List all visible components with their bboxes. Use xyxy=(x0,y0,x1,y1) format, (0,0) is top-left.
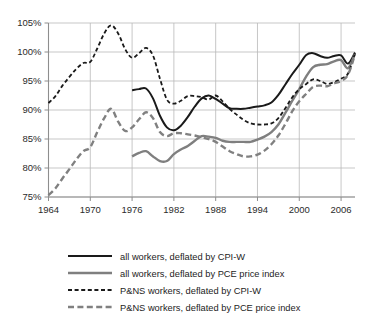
y-axis-tick-label: 95% xyxy=(22,75,42,86)
chart-legend: all workers, deflated by CPI-Wall worker… xyxy=(68,252,301,313)
y-axis-tick-label: 80% xyxy=(22,162,42,173)
x-axis-tick-label: 2000 xyxy=(289,204,310,215)
x-tickmarks xyxy=(49,197,342,201)
x-axis-tick-label: 1994 xyxy=(247,204,268,215)
series-line-3 xyxy=(49,54,356,195)
x-axis-tick-label: 1988 xyxy=(205,204,226,215)
legend-label-3: P&NS workers, deflated by PCE price inde… xyxy=(120,303,301,313)
x-axis-tick-label: 1964 xyxy=(38,204,59,215)
legend-label-1: all workers, deflated by PCE price index xyxy=(120,269,285,279)
y-axis-tick-label: 75% xyxy=(22,191,42,202)
x-axis-tick-label: 2006 xyxy=(330,204,351,215)
x-axis-tick-label: 1982 xyxy=(163,204,184,215)
y-gridlines xyxy=(49,23,356,197)
x-axis-tick-label: 1970 xyxy=(80,204,101,215)
x-axis-tick-label: 1976 xyxy=(122,204,143,215)
y-axis-tick-label: 100% xyxy=(17,46,42,57)
y-tickmarks xyxy=(45,23,49,197)
x-axis-tick-labels: 19641970197619821988199420002006 xyxy=(38,204,352,215)
series-line-1 xyxy=(132,54,355,162)
y-axis-tick-label: 105% xyxy=(17,17,42,28)
y-axis-tick-label: 85% xyxy=(22,133,42,144)
chart-container: 105%100%95%90%85%80%75% 1964197019761982… xyxy=(0,0,373,313)
line-chart: 105%100%95%90%85%80%75% 1964197019761982… xyxy=(0,0,373,313)
y-axis-tick-label: 90% xyxy=(22,104,42,115)
legend-label-2: P&NS workers, deflated by CPI-W xyxy=(120,286,261,296)
y-axis-tick-labels: 105%100%95%90%85%80%75% xyxy=(17,17,42,202)
legend-label-0: all workers, deflated by CPI-W xyxy=(120,252,245,262)
